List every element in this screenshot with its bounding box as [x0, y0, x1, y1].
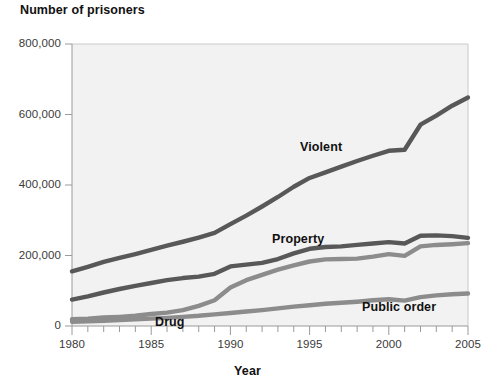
series-label-public-order: Public order	[362, 300, 436, 314]
x-axis-tick-label: 1985	[128, 338, 174, 350]
series-label-violent: Violent	[300, 140, 342, 154]
x-axis-tick-label: 2000	[366, 338, 412, 350]
x-axis-tick-label: 1995	[287, 338, 333, 350]
chart-container: Number of prisoners 0200,000400,000600,0…	[0, 0, 495, 388]
x-axis-tick-label: 1990	[207, 338, 253, 350]
y-axis-tick-label: 600,000	[1, 108, 61, 120]
x-axis-title: Year	[0, 364, 495, 379]
x-axis-tick-label: 1980	[49, 338, 95, 350]
x-axis-tick-label: 2005	[445, 338, 491, 350]
chart-plot-area	[0, 0, 495, 388]
y-axis-tick-label: 400,000	[1, 178, 61, 190]
plot-background	[72, 44, 468, 326]
series-label-property: Property	[272, 232, 324, 246]
series-label-drug: Drug	[155, 315, 185, 329]
y-axis-tick-label: 0	[1, 319, 61, 331]
y-axis-tick-label: 200,000	[1, 249, 61, 261]
y-axis-tick-label: 800,000	[1, 37, 61, 49]
